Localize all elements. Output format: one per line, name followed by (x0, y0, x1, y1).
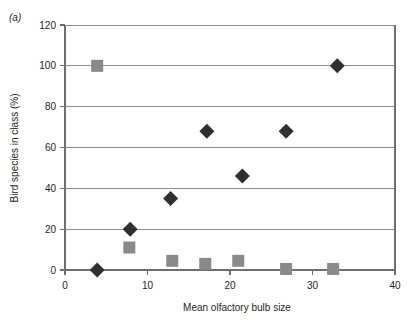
data-point-diamond (279, 124, 294, 139)
y-tick-label: 120 (39, 20, 56, 31)
x-tick-labels-group: 010203040 (62, 280, 401, 291)
data-point-square (199, 258, 211, 270)
data-point-diamond (199, 124, 214, 139)
x-tick-label: 0 (62, 280, 68, 291)
tick-marks-group (60, 25, 395, 275)
y-tick-label: 20 (45, 224, 57, 235)
figure-container: (a) 020406080100120 010203040 Mean olfac… (0, 0, 420, 332)
x-axis-title: Mean olfactory bulb size (183, 302, 291, 313)
data-point-diamond (163, 191, 178, 206)
gridlines-group (65, 25, 395, 229)
data-point-square (232, 255, 244, 267)
y-tick-label: 80 (45, 101, 57, 112)
y-tick-label: 60 (45, 142, 57, 153)
x-tick-label: 10 (142, 280, 154, 291)
x-tick-label: 30 (307, 280, 319, 291)
data-point-diamond (123, 222, 138, 237)
data-point-square (91, 60, 103, 72)
x-tick-label: 20 (224, 280, 236, 291)
data-point-diamond (330, 58, 345, 73)
data-point-square (166, 255, 178, 267)
x-tick-label: 40 (389, 280, 401, 291)
data-point-square (123, 242, 135, 254)
scatter-plot: 020406080100120 010203040 Mean olfactory… (0, 0, 420, 332)
y-tick-label: 40 (45, 183, 57, 194)
y-axis-title: Bird species in class (%) (9, 94, 20, 203)
data-point-square (327, 263, 339, 275)
data-point-diamond (90, 263, 105, 278)
y-tick-labels-group: 020406080100120 (39, 20, 56, 276)
data-point-square (280, 263, 292, 275)
data-point-diamond (235, 169, 250, 184)
data-points-group (90, 58, 345, 277)
y-tick-label: 0 (50, 265, 56, 276)
y-tick-label: 100 (39, 60, 56, 71)
